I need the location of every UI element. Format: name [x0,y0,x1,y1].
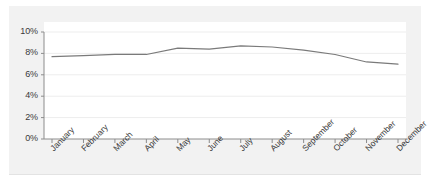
x-axis-tick-label: March [111,129,135,153]
x-axis-tick-label: May [174,135,192,153]
x-axis-tick-label: September [300,117,336,153]
x-axis-tick-label: February [79,122,110,153]
x-axis-tick-label: January [48,125,76,153]
x-axis-tick-label: July [237,135,255,153]
x-axis-tick-label: August [268,127,294,153]
x-axis-tick-label: April [142,134,161,153]
x-axis-tick-label: June [205,133,225,153]
x-axis-tick-label: December [394,119,429,154]
line-chart-figure: 0%2%4%6%8%10% JanuaryFebruaryMarchAprilM… [0,0,429,191]
x-axis-tick-label: November [363,119,398,154]
x-axis-labels: JanuaryFebruaryMarchAprilMayJuneJulyAugu… [0,0,429,191]
x-axis-tick-label: October [331,125,359,153]
